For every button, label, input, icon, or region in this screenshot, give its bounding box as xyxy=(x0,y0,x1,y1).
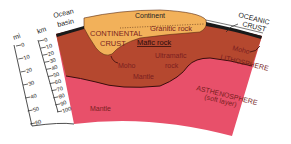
mi-scale-tick xyxy=(21,71,26,72)
km-unit-label: km xyxy=(36,25,47,35)
mi-scale-tick xyxy=(23,84,28,85)
mafic-rock-label: Mafic rock xyxy=(137,38,171,47)
earth-crust-diagram: 0102030405060 0102030405060708090100 mi … xyxy=(0,0,291,144)
km-scale-tick xyxy=(41,47,46,48)
km-scale-tick-label: 100 xyxy=(61,105,72,114)
mi-scale-tick-label: 30 xyxy=(27,79,35,87)
continent-label: Continent xyxy=(135,12,165,19)
mi-scale-tick-label: 40 xyxy=(30,92,38,100)
km-scale-tick xyxy=(46,68,51,69)
km-scale-tick xyxy=(43,54,48,55)
mantle-lower-label: Mantle xyxy=(90,105,111,112)
mi-unit-label: mi xyxy=(12,32,22,41)
km-scale-tick-label: 0 xyxy=(43,36,48,43)
continental-crust-label-2: CRUST xyxy=(100,39,126,48)
mi-scale-tick xyxy=(18,58,23,59)
mi-scale-tick-label: 0 xyxy=(20,41,25,48)
km-scale-tick xyxy=(50,83,55,84)
mantle-upper-label: Mantle xyxy=(133,73,154,80)
mi-scale-tick xyxy=(16,45,21,46)
km-scale-tick xyxy=(44,61,49,62)
km-scale-tick xyxy=(52,90,57,91)
km-scale-tick xyxy=(48,76,53,77)
ultramafic-label-2: rock xyxy=(165,62,179,69)
moho-left-label: Moho xyxy=(118,62,136,69)
mi-scale-tick xyxy=(30,123,35,124)
mi-scale-tick xyxy=(25,97,30,98)
granitic-rock-label: Granitic rock xyxy=(150,24,192,33)
ultramafic-label-1: Ultramafic xyxy=(155,52,187,59)
mi-scale-tick-label: 20 xyxy=(25,66,33,74)
mi-scale-tick-label: 10 xyxy=(23,53,31,61)
km-scale-tick xyxy=(39,40,44,41)
mi-scale-tick-label: 50 xyxy=(32,105,40,113)
ocean-basin-label-2: basin xyxy=(57,17,75,28)
continental-crust-label-1: CONTINENTAL xyxy=(90,29,142,38)
